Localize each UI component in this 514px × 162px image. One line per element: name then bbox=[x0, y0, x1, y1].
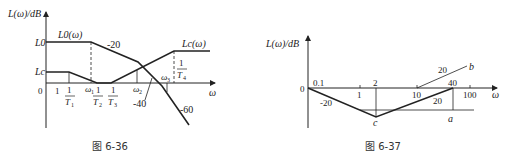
y-axis-label: L(ω)/dB bbox=[265, 38, 299, 50]
y-axis-label: L(ω)/dB bbox=[7, 8, 41, 20]
tick-omega3: ω3 bbox=[161, 72, 170, 83]
point-c: c bbox=[373, 117, 378, 128]
svg-text:1: 1 bbox=[111, 85, 116, 95]
level-L0: L0 bbox=[34, 37, 46, 48]
slope-label-minus40: -40 bbox=[133, 98, 146, 109]
tick-1-T1: 1 T1 bbox=[65, 85, 75, 108]
x-axis-label: ω bbox=[209, 87, 216, 98]
tick-1: 1 bbox=[357, 90, 362, 100]
svg-text:4: 4 bbox=[183, 75, 186, 81]
origin-label: 0 bbox=[300, 84, 305, 94]
tick-1: 1 bbox=[55, 86, 60, 96]
tick-40: 40 bbox=[448, 78, 458, 88]
tick-0.1: 0.1 bbox=[313, 78, 324, 88]
svg-text:1: 1 bbox=[179, 58, 184, 68]
slope-label-minus60: -60 bbox=[180, 104, 193, 115]
leader-line-minus40 bbox=[145, 78, 152, 100]
curve-label-L0: L0(ω) bbox=[57, 29, 83, 41]
tick-1-T4: 1 T4 bbox=[177, 58, 187, 81]
figure-6-36: L(ω)/dB ω 0 L0 Lc L0(ω) -20 -40 -60 Lc(ω… bbox=[7, 8, 216, 152]
svg-text:2: 2 bbox=[139, 89, 142, 95]
x-axis-label: ω bbox=[492, 89, 499, 100]
svg-text:1: 1 bbox=[96, 85, 101, 95]
point-b: b bbox=[469, 61, 474, 72]
svg-text:2: 2 bbox=[99, 102, 102, 108]
slope-label-20-b: 20 bbox=[438, 65, 448, 75]
figures-canvas: L(ω)/dB ω 0 L0 Lc L0(ω) -20 -40 -60 Lc(ω… bbox=[0, 0, 514, 162]
origin-label: 0 bbox=[38, 86, 43, 96]
tick-2: 2 bbox=[373, 78, 378, 88]
slope-label-20: 20 bbox=[433, 96, 443, 106]
tick-1-T3: 1 T3 bbox=[108, 85, 118, 108]
tick-10: 10 bbox=[412, 90, 422, 100]
point-a: a bbox=[448, 113, 453, 124]
svg-text:1: 1 bbox=[71, 102, 74, 108]
svg-text:3: 3 bbox=[114, 102, 117, 108]
tick-1-T2: 1 T2 bbox=[93, 85, 103, 108]
svg-text:1: 1 bbox=[91, 89, 94, 95]
slope-label-minus20: -20 bbox=[320, 98, 332, 108]
svg-text:1: 1 bbox=[67, 85, 72, 95]
tick-100: 100 bbox=[463, 90, 477, 100]
caption-6-37: 图 6-37 bbox=[365, 141, 401, 152]
svg-text:3: 3 bbox=[167, 77, 170, 83]
level-Lc: Lc bbox=[34, 66, 46, 77]
tick-omega1: ω1 bbox=[85, 84, 94, 95]
curve-label-Lc: Lc(ω) bbox=[181, 38, 206, 50]
tick-omega2: ω2 bbox=[133, 84, 142, 95]
slope-label-minus20: -20 bbox=[107, 39, 120, 50]
figure-6-37: L(ω)/dB ω 0 0.1 1 2 10 40 100 -20 20 20 … bbox=[265, 36, 499, 152]
caption-6-36: 图 6-36 bbox=[92, 141, 128, 152]
